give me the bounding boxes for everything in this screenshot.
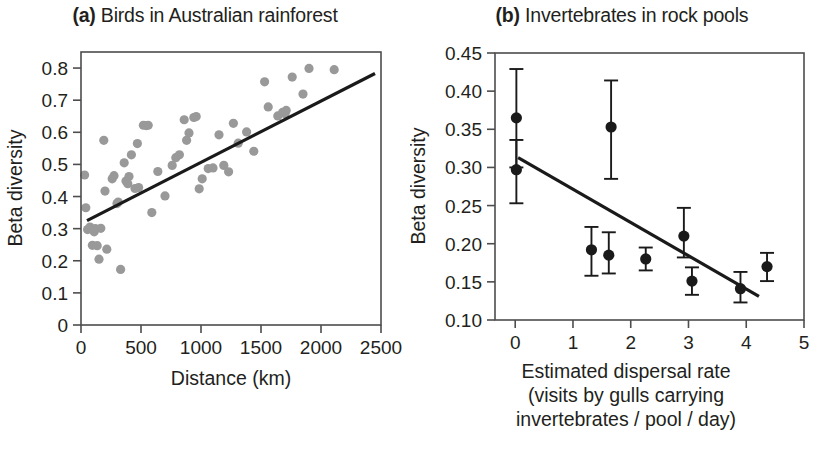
panel-a-trendline xyxy=(87,74,375,221)
panel-a-data-point xyxy=(249,147,258,156)
panel-a-data-point xyxy=(147,208,156,217)
panel-a-data-point xyxy=(124,172,133,181)
panel-a-ytick-label: 0.3 xyxy=(42,219,68,240)
panel-a-data-point xyxy=(133,139,142,148)
panel-b-data-point xyxy=(761,261,772,272)
panel-b-data-point xyxy=(605,121,616,132)
panel-b-xtick-label: 0 xyxy=(510,332,521,353)
panel-b-trendline xyxy=(518,158,759,297)
panel-b-ytick-label: 0.15 xyxy=(445,272,482,293)
panel-a-ytick-label: 0.6 xyxy=(42,122,68,143)
panel-b-ytick-label: 0.10 xyxy=(445,310,482,331)
figure-container: (a) Birds in Australian rainforest 00.10… xyxy=(0,0,834,453)
panel-a-data-point xyxy=(282,106,291,115)
panel-a-data-point xyxy=(214,130,223,139)
panel-b-xtick-label: 2 xyxy=(625,332,636,353)
panel-b-ytick-label: 0.25 xyxy=(445,196,482,217)
panel-b-frame xyxy=(495,53,804,320)
panel-a-xtick-label: 2000 xyxy=(300,337,342,358)
panel-b-ytick-label: 0.40 xyxy=(445,81,482,102)
panel-a-data-point xyxy=(153,167,162,176)
panel-b-xaxis-label-line3: invertebrates / pool / day) xyxy=(516,408,736,430)
panel-b-xtick-label: 1 xyxy=(568,332,579,353)
panel-a-data-point xyxy=(160,191,169,200)
panel-b-data-point xyxy=(640,253,651,264)
panel-b-plot: 0.100.150.200.250.300.350.400.45012345 E… xyxy=(410,0,834,453)
panel-b-xaxis-label-line1: Estimated dispersal rate xyxy=(521,360,730,382)
panel-a-data-point xyxy=(195,184,204,193)
panel-b-data-point xyxy=(735,283,746,294)
panel-b-ytick-label: 0.35 xyxy=(445,119,482,140)
panel-b-data-point xyxy=(586,244,597,255)
panel-a-data-point xyxy=(330,65,339,74)
panel-b-regression-line xyxy=(518,158,759,297)
panel-a-data-point xyxy=(144,121,153,130)
panel-a-data-point xyxy=(99,136,108,145)
panel-a-data-point xyxy=(260,77,269,86)
panel-b-data-point xyxy=(511,112,522,123)
panel-a: (a) Birds in Australian rainforest 00.10… xyxy=(0,0,410,453)
panel-b-xtick-label: 3 xyxy=(683,332,694,353)
panel-a-xtick-label: 0 xyxy=(76,337,87,358)
panel-a-xtick-label: 1000 xyxy=(180,337,222,358)
panel-b-ytick-label: 0.20 xyxy=(445,234,482,255)
panel-a-data-point xyxy=(127,150,136,159)
panel-b-data-point xyxy=(511,164,522,175)
panel-a-yaxis-label: Beta diversity xyxy=(4,129,26,246)
panel-b-yaxis-label: Beta diversity xyxy=(410,127,429,244)
panel-a-xaxis-label: Distance (km) xyxy=(171,367,291,389)
panel-a-tick-labels: 00.10.20.30.40.50.60.70.8050010001500200… xyxy=(42,58,403,358)
panel-a-regression-line xyxy=(87,74,375,221)
panel-b-xtick-label: 4 xyxy=(741,332,752,353)
panel-a-scatter-layer xyxy=(80,64,339,274)
panel-a-data-point xyxy=(100,186,109,195)
panel-b: (b) Invertebrates in rock pools 0.100.15… xyxy=(410,0,834,453)
panel-b-xtick-label: 5 xyxy=(799,332,810,353)
panel-a-data-point xyxy=(304,64,313,73)
panel-b-tick-labels: 0.100.150.200.250.300.350.400.45012345 xyxy=(445,43,809,353)
panel-a-data-point xyxy=(81,203,90,212)
panel-b-xaxis-label-line2: (visits by gulls carrying xyxy=(528,384,724,406)
panel-a-data-point xyxy=(198,174,207,183)
panel-b-data-point xyxy=(686,275,697,286)
panel-a-ytick-label: 0.2 xyxy=(42,251,68,272)
panel-a-data-point xyxy=(120,158,129,167)
panel-a-ytick-label: 0.1 xyxy=(42,283,68,304)
panel-a-data-point xyxy=(208,163,217,172)
panel-a-ytick-label: 0.7 xyxy=(42,90,68,111)
panel-a-plot: 00.10.20.30.40.50.60.70.8050010001500200… xyxy=(0,0,410,453)
panel-a-data-point xyxy=(93,241,102,250)
panel-a-xtick-label: 1500 xyxy=(240,337,282,358)
panel-b-ytick-label: 0.45 xyxy=(445,43,482,64)
panel-a-ytick-label: 0 xyxy=(57,315,68,336)
panel-a-data-point xyxy=(298,89,307,98)
panel-a-data-point xyxy=(242,127,251,136)
panel-a-data-point xyxy=(184,128,193,137)
panel-b-data-point xyxy=(678,230,689,241)
panel-a-data-point xyxy=(102,245,111,254)
panel-b-ytick-label: 0.30 xyxy=(445,157,482,178)
panel-a-data-point xyxy=(224,167,233,176)
panel-a-xtick-label: 500 xyxy=(125,337,157,358)
panel-a-ytick-label: 0.5 xyxy=(42,154,68,175)
panel-a-data-point xyxy=(192,112,201,121)
panel-a-data-point xyxy=(109,171,118,180)
panel-a-data-point xyxy=(180,115,189,124)
panel-b-errorbar-layer xyxy=(509,69,774,302)
panel-a-data-point xyxy=(116,265,125,274)
panel-a-data-point xyxy=(175,150,184,159)
panel-a-data-point xyxy=(288,72,297,81)
panel-a-xtick-label: 2500 xyxy=(360,337,402,358)
panel-a-data-point xyxy=(134,183,143,192)
panel-a-data-point xyxy=(96,224,105,233)
panel-a-data-point xyxy=(264,102,273,111)
panel-a-ytick-label: 0.8 xyxy=(42,58,68,79)
panel-a-data-point xyxy=(94,255,103,264)
panel-b-data-point xyxy=(603,250,614,261)
panel-a-data-point xyxy=(229,119,238,128)
panel-b-axes xyxy=(487,53,804,328)
panel-a-ytick-label: 0.4 xyxy=(42,187,69,208)
